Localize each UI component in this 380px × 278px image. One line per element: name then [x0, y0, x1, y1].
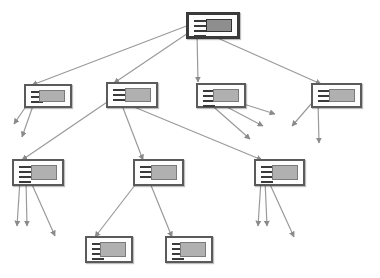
text-lines-icon — [194, 20, 206, 40]
image-placeholder-icon — [180, 242, 206, 257]
link-arrow — [268, 180, 294, 237]
page-node — [254, 159, 305, 186]
image-placeholder-icon — [272, 165, 298, 180]
image-placeholder-icon — [151, 165, 177, 180]
link-arrows — [14, 22, 321, 237]
text-lines-icon — [113, 89, 125, 104]
image-placeholder-icon — [329, 89, 355, 102]
link-arrow — [265, 180, 267, 226]
image-placeholder-icon — [39, 90, 65, 102]
link-arrow — [258, 180, 261, 226]
image-placeholder-icon — [213, 89, 239, 102]
page-node — [165, 236, 213, 263]
image-placeholder-icon — [100, 242, 126, 257]
image-placeholder-icon — [31, 165, 57, 180]
page-node — [133, 159, 184, 186]
page-node — [12, 159, 64, 186]
page-node — [311, 83, 362, 108]
link-arrow — [114, 27, 197, 83]
link-arrow — [26, 180, 27, 226]
page-node — [196, 83, 246, 108]
root-page-node — [186, 12, 240, 39]
image-placeholder-icon — [125, 88, 151, 102]
link-arrow — [30, 180, 55, 236]
link-arrow — [204, 32, 321, 84]
page-node — [24, 84, 72, 108]
link-arrow — [17, 180, 20, 226]
link-arrow — [148, 178, 172, 237]
page-node — [85, 236, 133, 263]
image-placeholder-icon — [206, 19, 232, 32]
page-node — [106, 82, 158, 108]
text-lines-icon — [19, 166, 31, 186]
link-arrow — [32, 22, 197, 85]
